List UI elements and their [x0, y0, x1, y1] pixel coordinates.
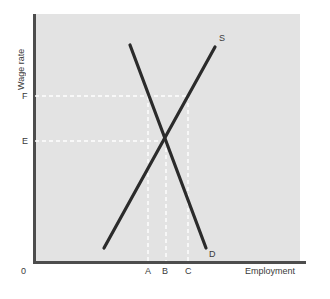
labour-market-supply-demand-chart: Wage rate Employment 0 F E A B C S D: [0, 0, 330, 299]
origin-label: 0: [21, 266, 26, 276]
demand-curve: [130, 45, 206, 248]
chart-overlay: [0, 0, 330, 299]
x-tick-label-b: B: [162, 266, 168, 276]
x-axis-title: Employment: [245, 266, 295, 276]
x-tick-label-c: C: [185, 266, 192, 276]
y-tick-label-e: E: [22, 136, 28, 146]
supply-curve-label: S: [219, 33, 225, 43]
x-tick-label-a: A: [145, 266, 151, 276]
supply-curve: [104, 47, 215, 248]
demand-curve-label: D: [209, 249, 216, 259]
y-tick-label-f: F: [22, 91, 28, 101]
y-axis-title: Wage rate: [16, 20, 28, 90]
